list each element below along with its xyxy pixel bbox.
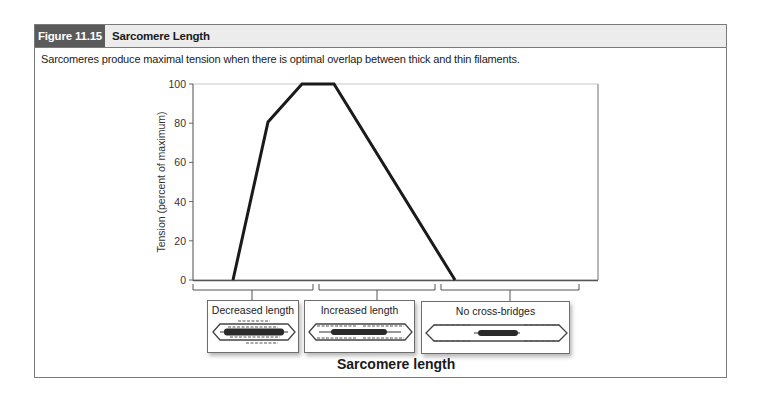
- svg-text:60: 60: [174, 156, 186, 168]
- y-tick-labels: 0 20 40 60 80 100: [168, 78, 186, 286]
- svg-text:80: 80: [174, 117, 186, 129]
- sarcomere-optimal-icon: [305, 301, 416, 354]
- x-axis-label: Sarcomere length: [337, 356, 455, 372]
- region-brackets: [193, 284, 579, 301]
- sarcomere-contracted-icon: [208, 301, 300, 354]
- sarcomere-overstretched-icon: [422, 302, 571, 355]
- y-axis-label: Tension (percent of maximum): [155, 111, 167, 252]
- svg-text:100: 100: [168, 78, 186, 90]
- panel-no-cross-bridges: No cross-bridges: [421, 301, 570, 354]
- panel-increased-length: Increased length: [304, 300, 415, 353]
- svg-text:40: 40: [174, 196, 186, 208]
- panel-decreased-length: Decreased length: [207, 300, 299, 353]
- svg-text:20: 20: [174, 235, 186, 247]
- y-ticks: [189, 84, 193, 280]
- svg-text:0: 0: [180, 274, 186, 286]
